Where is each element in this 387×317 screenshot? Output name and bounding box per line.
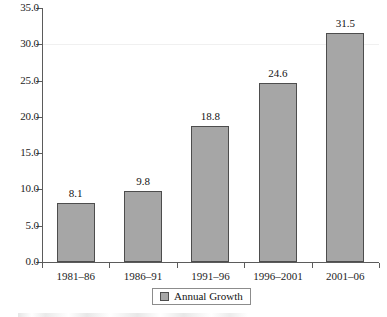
y-axis-tick-label: 25.0: [0, 75, 39, 86]
bar-value-label: 18.8: [201, 111, 220, 122]
bar-slot: 31.5: [312, 8, 379, 262]
legend-label: Annual Growth: [174, 291, 243, 302]
y-axis-tick-label: 10.0: [0, 183, 39, 194]
legend-swatch-icon: [160, 292, 169, 301]
bar: [259, 83, 297, 262]
x-axis-tick: [312, 263, 313, 268]
bar-chart: 0.05.010.015.020.025.030.035.0 8.19.818.…: [0, 0, 387, 317]
x-axis-category-label: 2001–06: [312, 270, 379, 282]
x-axis-category-label: 1991–96: [177, 270, 244, 282]
bar: [57, 203, 95, 262]
y-axis-tick-label: 20.0: [0, 111, 39, 122]
x-axis-category-label: 1981–86: [42, 270, 109, 282]
x-axis-category-label: 1986–91: [109, 270, 176, 282]
x-axis-line: [42, 262, 379, 263]
bar-value-label: 9.8: [136, 176, 150, 187]
bar: [124, 191, 162, 262]
y-axis-tick-label: 30.0: [0, 38, 39, 49]
x-axis-tick: [177, 263, 178, 268]
x-axis-tick: [379, 263, 380, 268]
y-axis-tick-label: 35.0: [0, 2, 39, 13]
bar-slot: 18.8: [177, 8, 244, 262]
chart-legend: Annual Growth: [152, 288, 251, 305]
bar-slot: 24.6: [244, 8, 311, 262]
bar-slot: 9.8: [109, 8, 176, 262]
bar-value-label: 24.6: [268, 68, 287, 79]
bar: [191, 126, 229, 262]
x-axis-tick: [42, 263, 43, 268]
bar: [326, 33, 364, 262]
page-edge-text-sliver: [18, 313, 248, 317]
x-axis-tick: [244, 263, 245, 268]
bar-value-label: 31.5: [336, 18, 355, 29]
x-axis-category-label: 1996–2001: [244, 270, 311, 282]
bars-layer: 8.19.818.824.631.5: [42, 8, 379, 262]
y-axis-tick-label: 0.0: [0, 256, 39, 267]
bar-value-label: 8.1: [69, 188, 83, 199]
y-axis-tick-label: 15.0: [0, 147, 39, 158]
x-axis-tick: [109, 263, 110, 268]
bar-slot: 8.1: [42, 8, 109, 262]
y-axis-tick-label: 5.0: [0, 220, 39, 231]
